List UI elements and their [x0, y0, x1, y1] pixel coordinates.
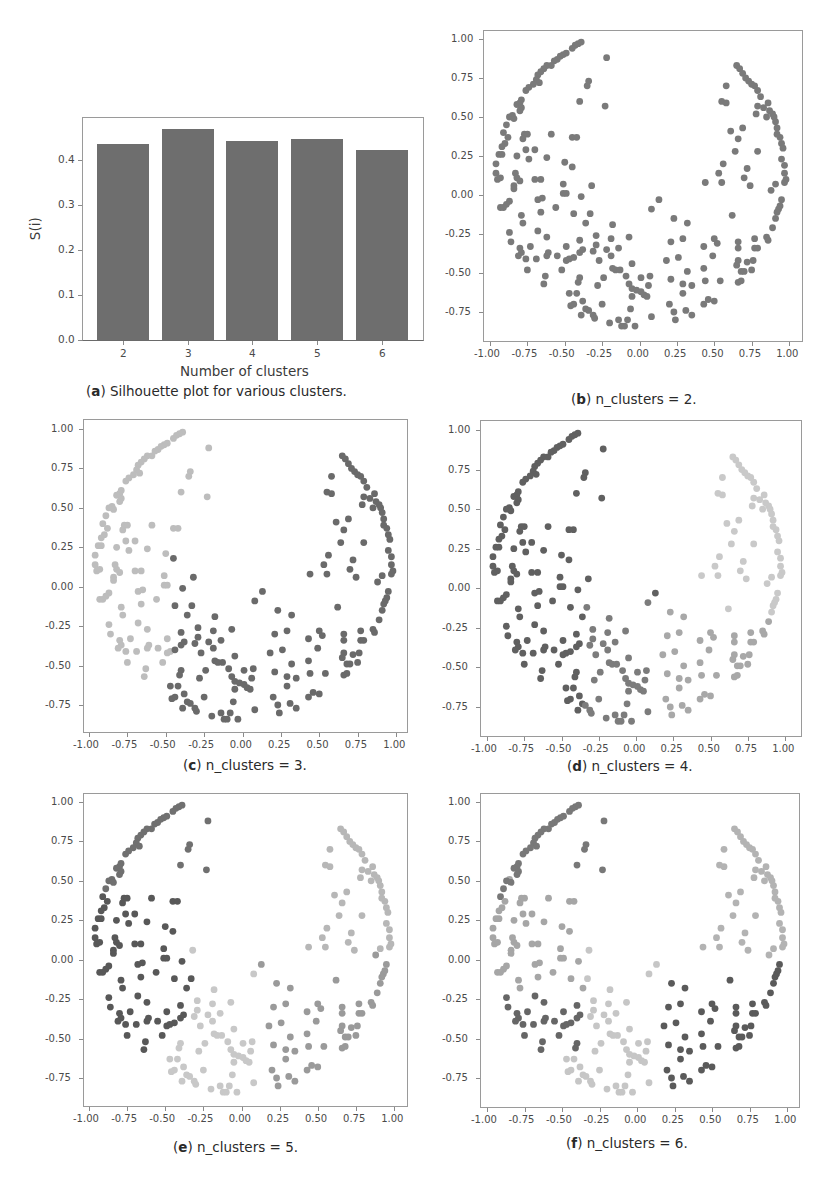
data-point — [291, 1078, 298, 1085]
data-point — [667, 609, 674, 616]
data-point — [685, 677, 692, 684]
data-point — [543, 234, 550, 241]
data-point — [664, 632, 671, 639]
data-point — [228, 673, 235, 680]
data-point — [574, 430, 581, 437]
data-point — [700, 944, 707, 951]
data-point — [225, 665, 232, 672]
data-point — [310, 689, 317, 696]
data-point — [528, 569, 535, 576]
y-tick-label: 0.0 — [58, 334, 75, 345]
data-point — [124, 1032, 131, 1039]
data-point — [141, 673, 148, 680]
data-point — [603, 715, 610, 722]
data-point — [519, 220, 526, 227]
data-point — [638, 1057, 645, 1064]
data-point — [682, 985, 689, 992]
data-point — [490, 934, 497, 941]
y-tick-label: 0.75 — [448, 836, 470, 846]
data-point — [116, 637, 123, 644]
x-tick-label: -1.00 — [471, 1115, 497, 1125]
data-point — [538, 1046, 545, 1053]
scatter-plot-area — [480, 793, 800, 1108]
data-point — [368, 877, 375, 884]
data-point — [747, 182, 754, 189]
data-point — [175, 683, 182, 690]
data-point — [134, 835, 141, 842]
data-point — [505, 1004, 512, 1011]
x-tick-mark — [394, 1107, 395, 1111]
data-point — [613, 1082, 620, 1089]
data-point — [528, 539, 535, 546]
data-point — [92, 925, 99, 932]
data-point — [539, 195, 546, 202]
data-point — [522, 146, 529, 153]
data-point — [560, 441, 567, 448]
data-point — [304, 1008, 311, 1015]
data-point — [367, 495, 374, 502]
data-point — [378, 974, 385, 981]
data-point — [130, 844, 137, 851]
data-point — [235, 1053, 242, 1060]
data-point — [371, 871, 378, 878]
data-point — [110, 950, 117, 957]
data-point — [524, 131, 531, 138]
data-point — [371, 629, 378, 636]
data-point — [766, 107, 773, 114]
x-tick-mark — [252, 341, 253, 345]
data-point — [513, 639, 520, 646]
data-point — [750, 479, 757, 486]
data-point — [778, 196, 785, 203]
data-point — [227, 999, 234, 1006]
data-point — [175, 525, 182, 532]
data-point — [354, 1023, 361, 1030]
x-tick-mark — [319, 733, 320, 737]
data-point — [512, 647, 519, 654]
data-point — [499, 151, 506, 158]
x-tick-mark — [127, 1107, 128, 1111]
data-point — [115, 1018, 122, 1025]
data-point — [604, 629, 611, 636]
data-point — [307, 670, 314, 677]
x-tick-label: 0.00 — [627, 349, 649, 359]
data-point — [322, 944, 329, 951]
y-tick-mark — [78, 295, 82, 296]
y-tick-mark — [79, 705, 83, 706]
data-point — [662, 696, 669, 703]
data-point — [250, 971, 257, 978]
data-point — [187, 700, 194, 707]
data-point — [500, 885, 507, 892]
data-point — [749, 503, 756, 510]
y-tick-mark — [476, 549, 480, 550]
data-point — [563, 685, 570, 692]
data-point — [768, 609, 775, 616]
scatter-plot-area — [480, 420, 802, 737]
data-point — [161, 441, 168, 448]
data-point — [617, 266, 624, 273]
data-point — [167, 683, 174, 690]
data-point — [113, 939, 120, 946]
x-tick-label: 5 — [314, 348, 321, 359]
x-tick-label: 1.00 — [381, 1114, 403, 1124]
data-point — [621, 323, 628, 330]
data-point — [500, 129, 507, 136]
y-tick-label: 0.50 — [448, 504, 470, 514]
data-point — [567, 604, 574, 611]
data-point — [774, 131, 781, 138]
data-point — [778, 909, 785, 916]
data-point — [531, 463, 538, 470]
data-point — [586, 707, 593, 714]
y-tick-label: 0.50 — [51, 876, 73, 886]
data-point — [110, 577, 117, 584]
data-point — [523, 920, 530, 927]
data-point — [567, 696, 574, 703]
data-point — [99, 893, 106, 900]
data-point — [527, 844, 534, 851]
data-point — [776, 537, 783, 544]
data-point — [491, 941, 498, 948]
data-point — [118, 1015, 125, 1022]
data-point — [629, 285, 636, 292]
data-point — [673, 1019, 680, 1026]
data-point — [570, 685, 577, 692]
data-point — [279, 646, 286, 653]
